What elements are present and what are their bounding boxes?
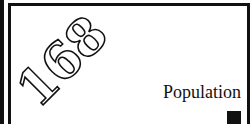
page-number: 168	[8, 8, 115, 115]
top-border	[8, 3, 250, 6]
section-title: Population	[163, 82, 241, 103]
left-border-bar	[0, 0, 4, 124]
marker-square-icon	[227, 111, 241, 124]
inner-left-border	[8, 3, 11, 124]
right-border	[247, 3, 250, 124]
